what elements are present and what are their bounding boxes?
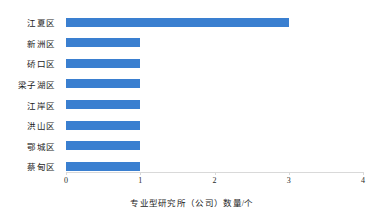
bar-row	[66, 53, 363, 74]
category-label: 洪山区	[27, 119, 55, 131]
bar[interactable]	[66, 59, 140, 68]
category-label-row: 鄂城区	[0, 136, 60, 157]
x-axis-tick-label: 2	[213, 176, 217, 185]
bar[interactable]	[66, 18, 289, 27]
bar[interactable]	[66, 162, 140, 171]
plot-area	[66, 12, 363, 172]
x-axis-tick	[215, 172, 216, 175]
bar-track	[66, 94, 363, 115]
bar-track	[66, 33, 363, 54]
category-axis-labels: 江夏区 新洲区 硚口区 梁子湖区 江岸区 洪山区 鄂城区 蔡甸区	[0, 12, 60, 172]
bar-track	[66, 115, 363, 136]
bar-row	[66, 136, 363, 157]
category-label: 梁子湖区	[18, 78, 55, 90]
category-label-row: 江岸区	[0, 94, 60, 115]
bar[interactable]	[66, 100, 140, 109]
category-label-row: 梁子湖区	[0, 74, 60, 95]
bar-track	[66, 136, 363, 157]
category-label: 硚口区	[27, 57, 55, 69]
category-label: 鄂城区	[27, 140, 55, 152]
x-axis-tick	[140, 172, 141, 175]
x-axis-tick-label: 1	[138, 176, 142, 185]
x-axis-tick-label: 4	[361, 176, 365, 185]
category-label-row: 蔡甸区	[0, 156, 60, 177]
bar-chart: 江夏区 新洲区 硚口区 梁子湖区 江岸区 洪山区 鄂城区 蔡甸区	[0, 0, 384, 221]
category-label-row: 江夏区	[0, 12, 60, 33]
x-axis-tick	[363, 172, 364, 175]
category-label-row: 硚口区	[0, 53, 60, 74]
bar-row	[66, 74, 363, 95]
bar[interactable]	[66, 79, 140, 88]
bar-row	[66, 115, 363, 136]
category-label-row: 新洲区	[0, 33, 60, 54]
bar-row	[66, 12, 363, 33]
bar[interactable]	[66, 38, 140, 47]
category-label: 江岸区	[27, 99, 55, 111]
category-label: 江夏区	[27, 16, 55, 28]
bar-track	[66, 74, 363, 95]
x-axis-tick-label: 0	[64, 176, 68, 185]
x-axis-tick	[289, 172, 290, 175]
category-label: 蔡甸区	[27, 160, 55, 172]
bar-row	[66, 94, 363, 115]
bar[interactable]	[66, 141, 140, 150]
x-axis-tick	[66, 172, 67, 175]
x-axis-tick-label: 3	[287, 176, 291, 185]
bar-track	[66, 12, 363, 33]
bar-row	[66, 33, 363, 54]
x-axis-title: 专业型研究所（公司）数量/个	[0, 196, 384, 208]
bar[interactable]	[66, 121, 140, 130]
category-label: 新洲区	[27, 37, 55, 49]
category-label-row: 洪山区	[0, 115, 60, 136]
bar-track	[66, 53, 363, 74]
